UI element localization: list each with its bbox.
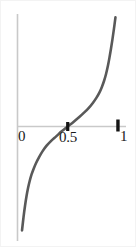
x-tick-label-one: 1 <box>120 129 128 144</box>
x-tick-label-half: 0.5 <box>59 130 77 145</box>
plot-figure: 0 0.5 1 <box>0 0 136 247</box>
plot-canvas <box>1 1 136 247</box>
x-tick-label-0: 0 <box>18 129 26 144</box>
